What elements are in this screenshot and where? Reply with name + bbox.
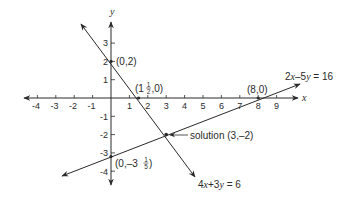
y-tick-label: -4 — [100, 167, 108, 177]
x-tick-label: 5 — [200, 101, 205, 111]
x-tick-label: -1 — [87, 101, 95, 111]
point-label-0-neg3fifth: (0,–3 1 5 ) — [115, 156, 152, 171]
equation-label-line1: 4x+3y = 6 — [198, 179, 241, 190]
svg-text:5: 5 — [144, 163, 148, 170]
equation-label-line2: 2x–5y = 16 — [285, 71, 334, 82]
intercept-point-8-0 — [257, 96, 260, 99]
x-tick-label: -2 — [69, 101, 77, 111]
y-axis-label: y — [109, 6, 115, 17]
x-tick-label: 8 — [256, 101, 261, 111]
x-tick-label: 6 — [219, 101, 224, 111]
x-axis-label: x — [301, 92, 307, 103]
x-tick-label: 9 — [274, 101, 279, 111]
line-4x-plus-3y-eq-6: 4x+3y = 6 — [81, 24, 241, 190]
x-tick-label: -4 — [32, 101, 40, 111]
intercept-point-0-neg3fifth — [109, 155, 112, 158]
intercept-point-0-2 — [109, 60, 112, 63]
svg-text:): ) — [149, 158, 152, 169]
x-tick-label: 7 — [237, 101, 242, 111]
point-label-8-0: (8,0) — [247, 84, 268, 95]
y-tick-label: -3 — [100, 148, 108, 158]
x-tick-label: 3 — [164, 101, 169, 111]
solution-point — [164, 133, 168, 137]
solution-label: solution (3,–2) — [190, 130, 253, 141]
svg-text:1: 1 — [147, 81, 151, 88]
x-tick-label: -3 — [50, 101, 58, 111]
line-2x-minus-5y-eq-16: 2x–5y = 16 — [62, 71, 334, 176]
y-tick-label: 1 — [103, 75, 108, 85]
svg-text:,0): ,0) — [152, 83, 164, 94]
svg-text:(1: (1 — [135, 83, 144, 94]
x-tick-label: 1 — [127, 101, 132, 111]
svg-text:1: 1 — [144, 156, 148, 163]
y-tick-label: 3 — [103, 38, 108, 48]
svg-text:2: 2 — [147, 88, 151, 95]
point-label-0-2: (0,2) — [116, 56, 137, 67]
intercept-point-1half-0 — [137, 96, 140, 99]
point-label-1half-0: (1 1 2 ,0) — [135, 81, 163, 96]
y-tick-label: -2 — [100, 130, 108, 140]
x-tick-label: 4 — [182, 101, 187, 111]
x-tick-label: 2 — [145, 101, 150, 111]
svg-text:(0,–3: (0,–3 — [115, 158, 138, 169]
y-tick-label: 2 — [103, 57, 108, 67]
y-tick-label: -1 — [100, 112, 108, 122]
linear-system-graph: -4 -3 -2 -1 1 2 3 4 5 6 7 8 9 x 3 — [0, 0, 351, 202]
